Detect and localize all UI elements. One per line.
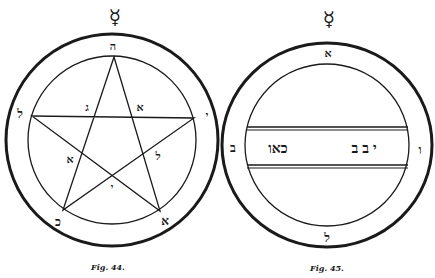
star-letter-center: י [111, 182, 114, 193]
ring-letter-bottom-left: כ [55, 215, 61, 229]
pentacle-plates: ☿ ה ל י כ א ג א א ל י Fig. 44. ☿ א ב ו ל… [0, 0, 435, 278]
figure-45: ☿ א ב ו ל כאו יבב Fig. 45. [222, 7, 432, 273]
band-word-left: כאו [268, 140, 288, 156]
ring-letter-top: ה [110, 40, 116, 53]
outer-circle [222, 43, 432, 247]
ring-letter-top: א [324, 47, 331, 60]
figure-caption: Fig. 44. [90, 262, 125, 272]
star-letter-lower-right: ל [154, 150, 160, 163]
inner-circle [28, 56, 196, 224]
ring-letter-bottom: ל [323, 231, 330, 245]
ring-letter-right: י [206, 109, 209, 122]
ring-letter-left: ל [16, 107, 23, 121]
outer-circle [6, 34, 218, 246]
ring-letter-left: ב [230, 141, 236, 155]
mercury-symbol-icon: ☿ [323, 7, 335, 31]
figure-44: ☿ ה ל י כ א ג א א ל י Fig. 44. [6, 5, 218, 272]
star-letter-upper-right: א [136, 101, 143, 114]
figure-caption: Fig. 45. [309, 263, 344, 273]
mercury-symbol-icon: ☿ [109, 5, 121, 29]
ring-letter-right: ו [418, 143, 421, 157]
band-word-right: יבב [351, 140, 380, 156]
star-letter-upper-left: ג [85, 101, 89, 114]
ring-letter-bottom-right: א [161, 214, 169, 228]
star-letter-lower-left: א [66, 153, 73, 166]
